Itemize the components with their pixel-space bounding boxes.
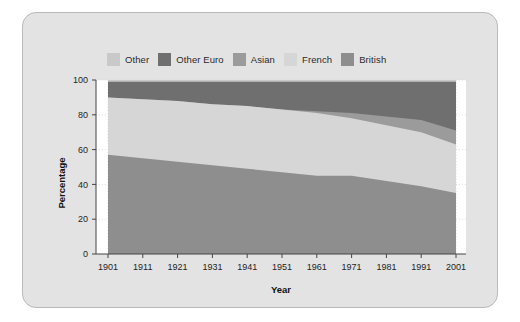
plot-area-wrapper: 020406080100 190119111921193119411951196… xyxy=(23,13,499,309)
x-axis-title: Year xyxy=(271,284,291,295)
y-tick-label: 100 xyxy=(73,75,88,85)
y-axis-title: Percentage xyxy=(56,157,67,208)
area-series-group xyxy=(108,80,456,254)
x-tick-label: 1921 xyxy=(168,262,188,272)
x-tick-label: 1991 xyxy=(411,262,431,272)
x-tick-label: 2001 xyxy=(446,262,466,272)
x-tick-labels: 1901191119211931194119511961197119811991… xyxy=(98,262,466,272)
y-tick-labels: 020406080100 xyxy=(73,75,88,259)
x-tick-label: 1931 xyxy=(202,262,222,272)
y-tick-label: 0 xyxy=(83,249,88,259)
x-tick-label: 1951 xyxy=(272,262,292,272)
y-tick-label: 80 xyxy=(78,110,88,120)
figure-panel: Other Other Euro Asian French British 02… xyxy=(22,12,498,308)
x-tick-label: 1901 xyxy=(98,262,118,272)
x-tick-label: 1981 xyxy=(376,262,396,272)
y-tick-label: 60 xyxy=(78,145,88,155)
x-tick-label: 1971 xyxy=(342,262,362,272)
x-tick-label: 1941 xyxy=(237,262,257,272)
x-tick-label: 1911 xyxy=(133,262,152,272)
y-tick-label: 40 xyxy=(78,180,88,190)
y-tick-label: 20 xyxy=(78,214,88,224)
x-tick-label: 1961 xyxy=(307,262,327,272)
stacked-area-chart: 020406080100 190119111921193119411951196… xyxy=(23,13,499,309)
